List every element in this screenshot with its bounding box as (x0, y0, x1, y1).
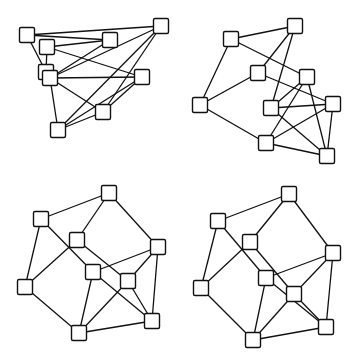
edge-E-I (25, 287, 79, 333)
node-A (224, 32, 239, 47)
edge-C-E (200, 73, 258, 105)
edge-I-G (58, 77, 142, 130)
node-C (103, 33, 118, 48)
node-C (70, 233, 85, 248)
edge-A-D (27, 26, 161, 35)
node-C (251, 66, 266, 81)
node-G (326, 97, 341, 112)
node-C (243, 235, 258, 250)
node-B (40, 40, 55, 55)
node-I (72, 326, 87, 341)
edge-F-G (271, 104, 333, 108)
edge-A-D (109, 193, 158, 247)
node-H (96, 105, 111, 120)
edge-D-H (152, 247, 158, 321)
node-E (194, 281, 209, 296)
edge-E-I (201, 288, 253, 340)
node-A (20, 28, 35, 43)
node-D (151, 240, 166, 255)
node-G (121, 274, 136, 289)
node-B (34, 212, 49, 227)
edge-F-H (266, 278, 326, 327)
node-H (259, 136, 274, 151)
edge-H-I (253, 327, 326, 340)
graph-bottom-left (18, 186, 166, 341)
node-D (326, 246, 341, 261)
edge-F-I (271, 108, 327, 156)
graph-bottom-right (194, 187, 341, 348)
edge-B-F (271, 26, 295, 108)
edge-D-F (266, 253, 333, 278)
node-D (154, 19, 169, 34)
node-H (145, 314, 160, 329)
edge-C-G (258, 73, 333, 104)
node-F (43, 71, 58, 86)
edge-A-B (41, 193, 109, 219)
edge-E-H (200, 105, 266, 143)
graph-drawings-canvas (0, 0, 357, 363)
node-B (288, 19, 303, 34)
node-F (259, 271, 274, 286)
node-A (102, 186, 117, 201)
edge-H-I (79, 321, 152, 333)
node-I (320, 149, 335, 164)
node-H (319, 320, 334, 335)
node-I (246, 333, 261, 348)
edge-D-I (307, 77, 327, 156)
edge-A-E (200, 39, 231, 105)
graph-top-right (193, 19, 341, 164)
edge-F-G (50, 77, 142, 78)
node-E (18, 280, 33, 295)
edge-D-F (93, 247, 158, 272)
node-G (287, 287, 302, 302)
node-I (51, 123, 66, 138)
graph-top-left (20, 19, 169, 138)
edge-B-E (25, 219, 41, 287)
node-D (300, 70, 315, 85)
node-E (193, 98, 208, 113)
node-A (282, 187, 297, 202)
edge-B-E (201, 221, 218, 288)
edge-A-B (231, 26, 295, 39)
edge-A-D (289, 194, 333, 253)
edge-F-I (79, 272, 93, 333)
edge-A-C (27, 35, 110, 40)
edge-H-I (266, 143, 327, 156)
node-B (211, 214, 226, 229)
node-F (264, 101, 279, 116)
edge-D-H (326, 253, 333, 327)
node-G (135, 70, 150, 85)
edge-F-I (253, 278, 266, 340)
node-F (86, 265, 101, 280)
